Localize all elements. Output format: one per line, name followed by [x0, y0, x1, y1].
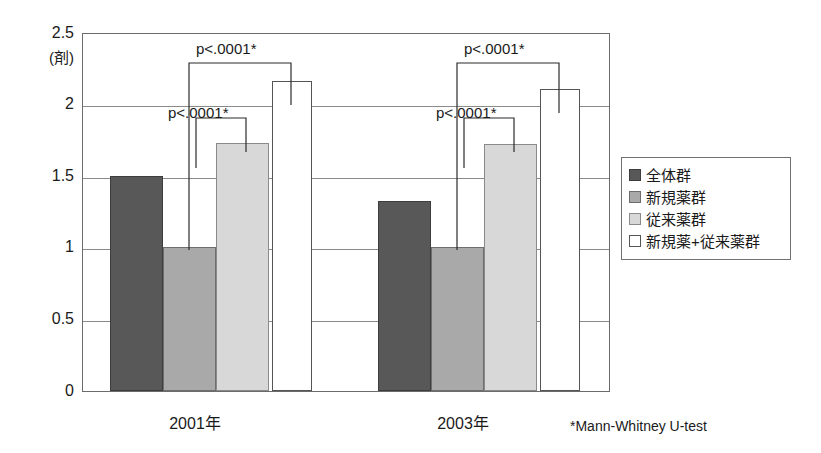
bar-2001-shinki — [163, 247, 216, 391]
legend-label-shinki-jurai: 新規薬+従来薬群 — [646, 234, 760, 249]
x-axis-label-2003: 2003年 — [408, 416, 518, 432]
plot-area — [82, 33, 610, 392]
y-tick-2.5: 2.5 — [52, 25, 74, 41]
bar-2003-shinki-jurai — [540, 89, 580, 391]
legend-swatch-icon-jurai — [629, 213, 641, 225]
y-tick-1: 1 — [65, 239, 74, 255]
bar-2001-shinki-jurai — [272, 81, 312, 391]
legend-swatch-icon-shinki-jurai — [629, 235, 641, 247]
x-axis-label-2001: 2001年 — [140, 416, 250, 432]
bar-2003-zentai — [378, 201, 431, 391]
y-tick-0.5: 0.5 — [52, 311, 74, 327]
legend-item-zentai: 全体群 — [629, 164, 782, 186]
sig-label-2003-outer: p<.0001* — [464, 41, 524, 56]
bar-chart-figure: 2.5 (剤) 2 1.5 1 0.5 0 — [0, 0, 821, 453]
legend-label-shinki: 新規薬群 — [646, 190, 706, 205]
bar-2003-shinki — [431, 247, 484, 391]
sig-label-2001-outer: p<.0001* — [196, 41, 256, 56]
y-tick-1.5: 1.5 — [52, 168, 74, 184]
legend-label-zentai: 全体群 — [646, 168, 691, 183]
legend-label-jurai: 従来薬群 — [646, 212, 706, 227]
legend-item-shinki-jurai: 新規薬+従来薬群 — [629, 230, 782, 252]
y-tick-2: 2 — [65, 96, 74, 112]
bar-2003-jurai — [484, 144, 537, 391]
footnote-statistical-test: *Mann-Whitney U-test — [570, 419, 707, 433]
y-axis-unit-label: (剤) — [49, 50, 74, 65]
y-axis-label-group: 2.5 (剤) 2 1.5 1 0.5 0 — [12, 0, 74, 453]
legend-swatch-icon-zentai — [629, 169, 641, 181]
bars-layer — [83, 34, 609, 391]
y-tick-0: 0 — [65, 383, 74, 399]
bar-2001-zentai — [110, 176, 163, 391]
legend: 全体群 新規薬群 従来薬群 新規薬+従来薬群 — [621, 157, 791, 260]
legend-item-jurai: 従来薬群 — [629, 208, 782, 230]
sig-label-2003-inner: p<.0001* — [436, 105, 496, 120]
legend-item-shinki: 新規薬群 — [629, 186, 782, 208]
legend-swatch-icon-shinki — [629, 191, 641, 203]
sig-label-2001-inner: p<.0001* — [168, 105, 228, 120]
bar-2001-jurai — [216, 143, 269, 391]
